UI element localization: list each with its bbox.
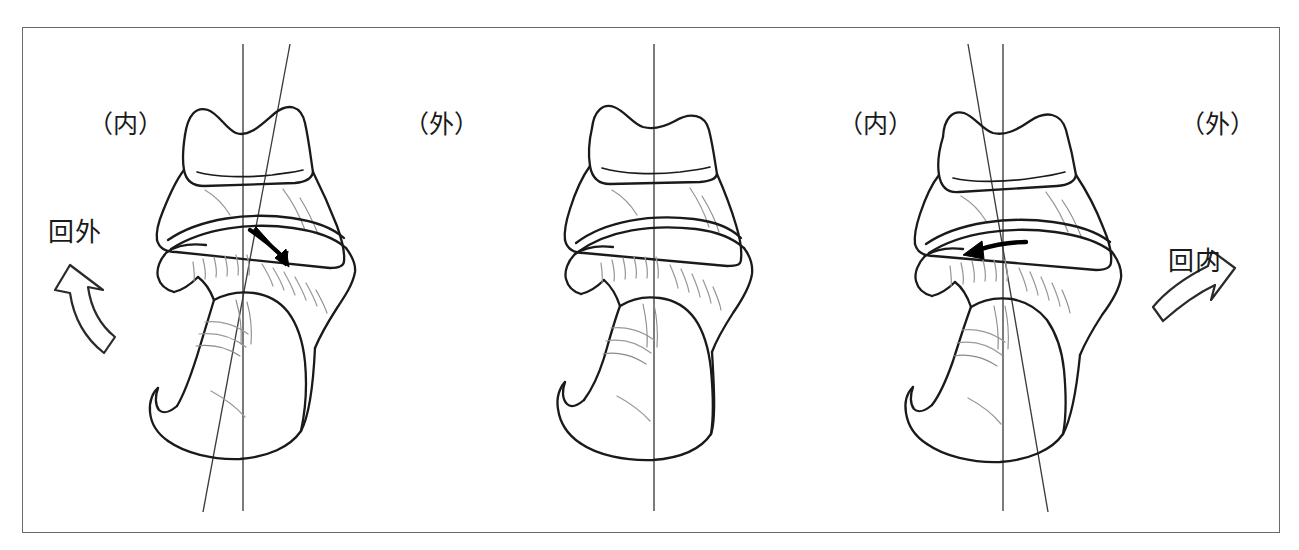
supination-label: 回外 [48,219,102,245]
anatomy-figure: .outline { fill:none; stroke:#1a1a1a; st… [0,0,1299,550]
left-panel-lateral-label: （外） [404,112,479,137]
left-panel-medial-label: （内） [88,112,163,137]
figure-frame [22,27,1280,533]
right-panel-lateral-label: （外） [1180,112,1255,137]
right-panel-medial-label: （内） [838,112,913,137]
pronation-label: 回内 [1168,248,1222,274]
